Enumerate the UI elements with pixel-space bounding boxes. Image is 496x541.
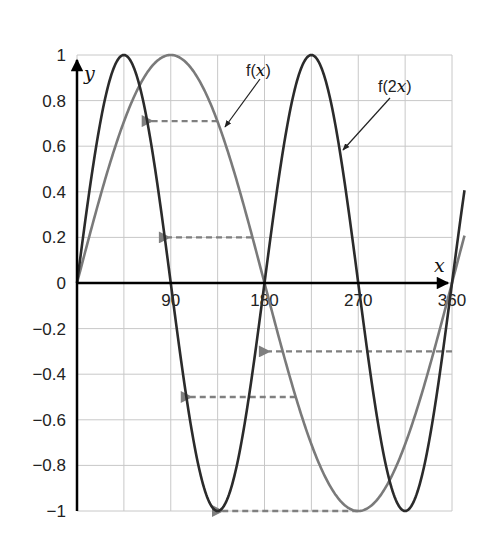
svg-text:f(x): f(x) [246,60,271,80]
y-tick-label: −0.6 [32,411,66,430]
y-axis-label: y [83,62,95,84]
label-f-of-2x: f(2x) [343,76,412,150]
y-tick-label: 0.4 [42,183,66,202]
x-axis-label: x [434,254,445,276]
y-tick-label: 0.6 [42,137,66,156]
y-tick-label: 0.2 [42,228,66,247]
label-f-of-x: f(x) [225,60,271,127]
y-tick-label: 0.8 [42,92,66,111]
x-tick-label: 90 [161,291,180,310]
x-tick-label: 360 [438,291,466,310]
x-tick-labels: 90180270360 [161,291,466,310]
leader-arrow-f-of-x [225,79,260,127]
y-tick-label: 1 [57,46,66,65]
y-tick-label: −1 [47,502,66,521]
y-tick-label: 0 [57,274,66,293]
y-tick-label: −0.4 [32,365,66,384]
y-tick-label: −0.2 [32,320,66,339]
sine-transformation-chart: 10.80.60.40.20−0.2−0.4−0.6−0.8−1 9018027… [0,0,496,541]
y-tick-label: −0.8 [32,456,66,475]
x-tick-label: 180 [250,291,278,310]
x-tick-label: 270 [344,291,372,310]
axes [77,60,448,511]
leader-arrow-f-of-2x [343,98,390,150]
svg-text:f(2x): f(2x) [378,76,412,96]
y-tick-labels: 10.80.60.40.20−0.2−0.4−0.6−0.8−1 [32,46,66,521]
